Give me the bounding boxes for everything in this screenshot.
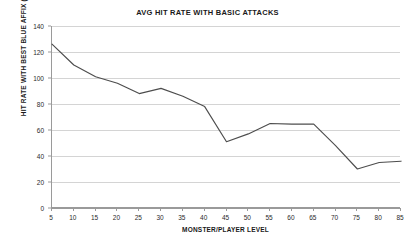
- x-tick-mark-70: [335, 208, 336, 211]
- x-tick-label-85: 85: [396, 214, 403, 221]
- x-tick-mark-85: [400, 208, 401, 211]
- chart-container: AVG HIT RATE WITH BASIC ATTACKS HIT RATE…: [0, 0, 415, 241]
- x-tick-mark-60: [291, 208, 292, 211]
- x-tick-mark-40: [204, 208, 205, 211]
- y-tick-label-0: 0: [40, 205, 44, 212]
- x-tick-label-65: 65: [309, 214, 316, 221]
- x-tick-label-45: 45: [222, 214, 229, 221]
- x-tick-mark-15: [95, 208, 96, 211]
- x-tick-mark-80: [378, 208, 379, 211]
- x-tick-mark-10: [73, 208, 74, 211]
- y-tick-label-100: 100: [33, 75, 44, 82]
- x-tick-mark-55: [269, 208, 270, 211]
- x-tick-label-75: 75: [353, 214, 360, 221]
- x-tick-label-30: 30: [156, 214, 163, 221]
- y-tick-label-40: 40: [37, 153, 44, 160]
- y-tick-label-140: 140: [33, 23, 44, 30]
- y-tick-label-20: 20: [37, 179, 44, 186]
- x-tick-label-60: 60: [287, 214, 294, 221]
- x-tick-label-20: 20: [113, 214, 120, 221]
- x-tick-label-40: 40: [200, 214, 207, 221]
- y-tick-label-60: 60: [37, 127, 44, 134]
- x-tick-mark-30: [160, 208, 161, 211]
- x-tick-label-5: 5: [49, 214, 53, 221]
- series-line: [52, 26, 401, 208]
- x-tick-label-25: 25: [135, 214, 142, 221]
- plot-area: [51, 26, 400, 208]
- x-tick-mark-20: [116, 208, 117, 211]
- x-tick-label-35: 35: [178, 214, 185, 221]
- x-tick-label-10: 10: [69, 214, 76, 221]
- x-tick-mark-50: [247, 208, 248, 211]
- y-tick-label-120: 120: [33, 49, 44, 56]
- chart-title: AVG HIT RATE WITH BASIC ATTACKS: [0, 8, 415, 17]
- y-tick-label-80: 80: [37, 101, 44, 108]
- x-tick-label-80: 80: [375, 214, 382, 221]
- x-tick-label-15: 15: [91, 214, 98, 221]
- x-axis-title: MONSTER/PLAYER LEVEL: [51, 226, 400, 233]
- x-tick-mark-25: [138, 208, 139, 211]
- y-axis-ticks: 020406080100120140: [0, 26, 51, 208]
- x-tick-label-50: 50: [244, 214, 251, 221]
- x-tick-mark-75: [356, 208, 357, 211]
- x-tick-mark-45: [226, 208, 227, 211]
- x-tick-mark-5: [51, 208, 52, 211]
- x-tick-mark-65: [313, 208, 314, 211]
- x-tick-label-55: 55: [266, 214, 273, 221]
- series-polyline: [52, 44, 401, 169]
- x-tick-label-70: 70: [331, 214, 338, 221]
- x-tick-mark-35: [182, 208, 183, 211]
